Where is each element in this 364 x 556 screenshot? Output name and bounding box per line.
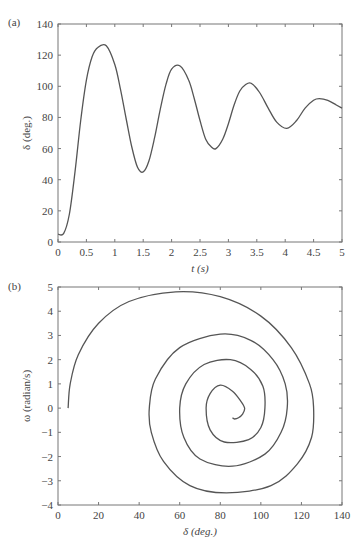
data-curve xyxy=(58,45,342,236)
x-tick-label: 1.5 xyxy=(136,246,150,258)
x-tick-label: 1 xyxy=(112,246,118,258)
x-tick-label: 3 xyxy=(226,246,232,258)
x-axis-label: δ (deg.) xyxy=(183,525,217,538)
y-tick-label: 20 xyxy=(42,205,54,217)
panel-label: (a) xyxy=(8,16,21,29)
x-tick-label: 80 xyxy=(215,509,227,521)
y-tick-label: 100 xyxy=(37,80,54,92)
x-tick-label: 4 xyxy=(282,246,288,258)
x-tick-label: 140 xyxy=(334,509,351,521)
panel-b-phase-portrait: 020406080100120140−4−3−2−1012345δ (deg.)… xyxy=(8,280,351,538)
x-tick-label: 3.5 xyxy=(250,246,264,258)
x-tick-label: 2.5 xyxy=(193,246,207,258)
panel-a-time-response: 00.511.522.533.544.55020406080100120140t… xyxy=(8,16,345,275)
x-axis-label: t (s) xyxy=(191,262,209,275)
y-tick-label: 40 xyxy=(42,174,54,186)
x-tick-label: 0 xyxy=(55,509,61,521)
x-tick-label: 4.5 xyxy=(307,246,321,258)
figure: 00.511.522.533.544.55020406080100120140t… xyxy=(0,0,364,556)
y-tick-label: 1 xyxy=(48,378,54,390)
x-tick-label: 0.5 xyxy=(80,246,94,258)
y-axis-label: ω (radian/s) xyxy=(20,370,33,422)
panel-label: (b) xyxy=(8,280,21,293)
y-tick-label: 0 xyxy=(48,402,54,414)
x-tick-label: 120 xyxy=(293,509,310,521)
y-tick-label: 4 xyxy=(48,305,54,317)
x-tick-label: 0 xyxy=(55,246,61,258)
y-axis-label: δ (deg.) xyxy=(20,116,33,150)
x-tick-label: 2 xyxy=(169,246,175,258)
y-tick-label: 0 xyxy=(48,236,54,248)
plot-frame xyxy=(58,24,342,242)
x-tick-label: 20 xyxy=(93,509,105,521)
y-tick-label: 140 xyxy=(37,18,54,30)
y-tick-label: 2 xyxy=(48,354,54,366)
data-curve xyxy=(68,292,314,493)
y-tick-label: 3 xyxy=(48,329,54,341)
x-tick-label: 40 xyxy=(134,509,146,521)
y-tick-label: −1 xyxy=(41,426,53,438)
y-tick-label: 80 xyxy=(42,111,54,123)
plot-frame xyxy=(58,287,342,505)
y-tick-label: 120 xyxy=(37,49,54,61)
x-tick-label: 100 xyxy=(253,509,270,521)
x-tick-label: 60 xyxy=(174,509,186,521)
y-tick-label: −3 xyxy=(41,475,53,487)
x-tick-label: 5 xyxy=(339,246,345,258)
y-tick-label: −4 xyxy=(41,499,53,511)
y-tick-label: −2 xyxy=(41,451,53,463)
y-tick-label: 60 xyxy=(42,143,54,155)
y-tick-label: 5 xyxy=(48,281,54,293)
